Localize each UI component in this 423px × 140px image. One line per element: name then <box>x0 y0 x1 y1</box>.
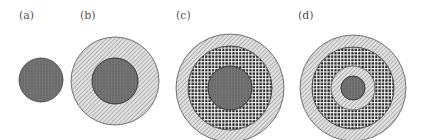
panel-a <box>19 58 63 102</box>
panel-label-c: (c) <box>176 9 191 22</box>
panel-label-a: (a) <box>19 9 34 22</box>
core-circle <box>19 58 63 102</box>
core-circle <box>92 58 138 104</box>
core-circle <box>208 66 252 110</box>
panel-c <box>176 34 284 140</box>
panel-label-d: (d) <box>298 9 314 22</box>
panel-label-b: (b) <box>80 9 96 22</box>
concentric-layers-diagram: (a) (b) (c) (d) <box>0 0 423 140</box>
core-circle <box>341 76 365 100</box>
panel-b <box>71 37 159 125</box>
panel-d <box>300 35 406 140</box>
